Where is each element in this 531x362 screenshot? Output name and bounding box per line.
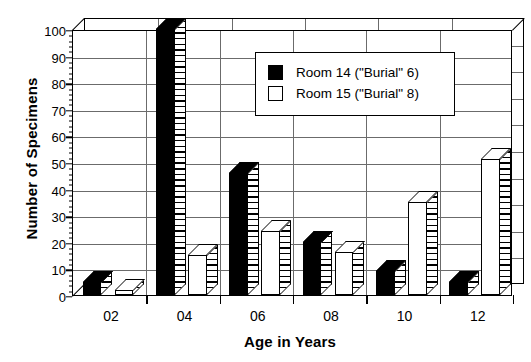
y-axis-tick xyxy=(66,163,72,164)
bar-front xyxy=(188,255,207,295)
bar-10-series-2 xyxy=(408,202,427,295)
bar-front xyxy=(156,29,175,295)
y-axis-minor-tick xyxy=(69,195,73,196)
y-axis-tick xyxy=(66,216,72,217)
bar-side xyxy=(248,162,259,295)
y-axis-minor-tick xyxy=(69,46,73,47)
x-axis-tick xyxy=(440,295,441,304)
y-gridline xyxy=(73,270,511,271)
bar-12-series-1 xyxy=(449,282,468,295)
y-axis-minor-tick xyxy=(69,36,73,37)
y-axis-tick-label: 40 xyxy=(52,184,66,197)
bar-front xyxy=(115,290,134,295)
bar-08-series-2 xyxy=(335,252,354,295)
bar-front xyxy=(261,231,280,295)
y-axis-minor-tick xyxy=(69,238,73,239)
y-axis-tick-label: 60 xyxy=(52,131,66,144)
x-axis-tick-label: 12 xyxy=(470,308,486,324)
y-axis-tick xyxy=(66,137,72,138)
x-axis-tick xyxy=(366,295,367,304)
y-axis-minor-tick xyxy=(69,89,73,90)
x-axis-tick-label: 04 xyxy=(177,308,193,324)
y-axis-minor-tick xyxy=(69,233,73,234)
y-axis-tick-label: 100 xyxy=(44,25,66,38)
y-axis-minor-tick xyxy=(69,286,73,287)
y-axis-minor-tick xyxy=(69,201,73,202)
y-axis-minor-tick xyxy=(69,41,73,42)
y-axis-title: Number of Specimens xyxy=(23,44,40,274)
bar-02-series-1 xyxy=(83,282,102,295)
x-axis-tick xyxy=(220,295,221,304)
y-axis-minor-tick xyxy=(69,68,73,69)
y-axis-minor-tick xyxy=(69,169,73,170)
y-axis-minor-tick xyxy=(69,148,73,149)
y-axis-minor-tick xyxy=(69,211,73,212)
x-axis-tick-label: 10 xyxy=(397,308,413,324)
legend-item: Room 14 ("Burial" 6) xyxy=(268,65,444,80)
x-divider xyxy=(146,31,147,295)
bar-front xyxy=(449,282,468,295)
y-axis-tick-label: 50 xyxy=(52,158,66,171)
plot-depth-edge-0 xyxy=(72,18,85,31)
legend-label-room-14: Room 14 ("Burial" 6) xyxy=(296,65,419,80)
y-axis-tick xyxy=(66,243,72,244)
x-divider xyxy=(220,31,221,295)
y-axis-tick-label: 90 xyxy=(52,51,66,64)
bar-front xyxy=(229,173,248,295)
y-axis-minor-tick xyxy=(69,254,73,255)
x-axis-tick-label: 06 xyxy=(250,308,266,324)
y-axis-minor-tick xyxy=(69,275,73,276)
bar-front xyxy=(303,242,322,295)
y-axis-minor-tick xyxy=(69,206,73,207)
y-axis-minor-tick xyxy=(69,265,73,266)
bar-front xyxy=(376,271,395,295)
y-axis-minor-tick xyxy=(69,153,73,154)
y-axis-tick-label: 70 xyxy=(52,104,66,117)
chart-legend: Room 14 ("Burial" 6) Room 15 ("Burial" 8… xyxy=(255,52,455,116)
bar-side xyxy=(500,148,511,295)
y-gridline xyxy=(73,244,511,245)
bar-front xyxy=(408,202,427,295)
y-axis-tick-label: 30 xyxy=(52,211,66,224)
bar-front xyxy=(83,282,102,295)
y-axis-minor-tick xyxy=(69,94,73,95)
y-axis-minor-tick xyxy=(69,158,73,159)
legend-swatch-room-15 xyxy=(268,86,283,101)
y-axis-minor-tick xyxy=(69,132,73,133)
bar-side xyxy=(280,220,291,295)
y-axis-minor-tick xyxy=(69,78,73,79)
y-axis-minor-tick xyxy=(69,185,73,186)
bar-front xyxy=(481,159,500,295)
y-axis-tick-label: 0 xyxy=(59,291,66,304)
y-gridline xyxy=(73,217,511,218)
y-axis-minor-tick xyxy=(69,174,73,175)
y-axis-minor-tick xyxy=(69,259,73,260)
y-axis-minor-tick xyxy=(69,222,73,223)
y-axis-tick xyxy=(66,110,72,111)
y-axis-tick xyxy=(66,190,72,191)
y-axis-minor-tick xyxy=(69,179,73,180)
y-axis-minor-tick xyxy=(69,105,73,106)
y-axis-tick-label: 10 xyxy=(52,264,66,277)
y-axis-minor-tick xyxy=(69,73,73,74)
bar-side xyxy=(427,191,438,295)
bar-06-series-2 xyxy=(261,231,280,295)
x-axis-tick-label: 08 xyxy=(323,308,339,324)
x-axis-tick xyxy=(146,295,147,304)
bar-08-series-1 xyxy=(303,242,322,295)
y-axis-tick xyxy=(66,296,72,297)
x-axis-title: Age in Years xyxy=(60,333,520,350)
y-axis-tick xyxy=(66,83,72,84)
y-axis-minor-tick xyxy=(69,116,73,117)
y-gridline xyxy=(73,191,511,192)
bar-10-series-1 xyxy=(376,271,395,295)
y-axis-tick xyxy=(66,270,72,271)
y-axis-tick-label: 80 xyxy=(52,78,66,91)
y-axis-tick-label: 20 xyxy=(52,237,66,250)
y-axis-minor-tick xyxy=(69,291,73,292)
legend-item: Room 15 ("Burial" 8) xyxy=(268,86,444,101)
bar-04-series-2 xyxy=(188,255,207,295)
bar-chart: Number of Specimens Age in Years 0102030… xyxy=(0,0,531,362)
bar-side xyxy=(175,18,186,295)
y-axis-minor-tick xyxy=(69,249,73,250)
